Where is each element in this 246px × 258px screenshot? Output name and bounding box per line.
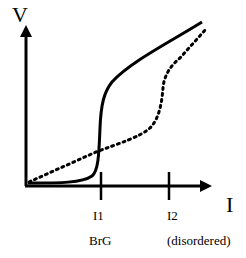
x-axis-label: I bbox=[226, 192, 233, 218]
tick-i1-label: I1 bbox=[93, 208, 104, 224]
dotted-curve bbox=[29, 29, 206, 182]
solid-curve bbox=[28, 22, 202, 183]
x-axis-arrow-icon bbox=[200, 180, 212, 192]
diagram-canvas bbox=[0, 0, 246, 258]
tick-i2-sublabel: (disordered) bbox=[167, 233, 231, 249]
tick-i1-sublabel: BrG bbox=[89, 233, 111, 249]
tick-i2-label: I2 bbox=[167, 208, 178, 224]
y-axis-label: V bbox=[12, 2, 28, 28]
